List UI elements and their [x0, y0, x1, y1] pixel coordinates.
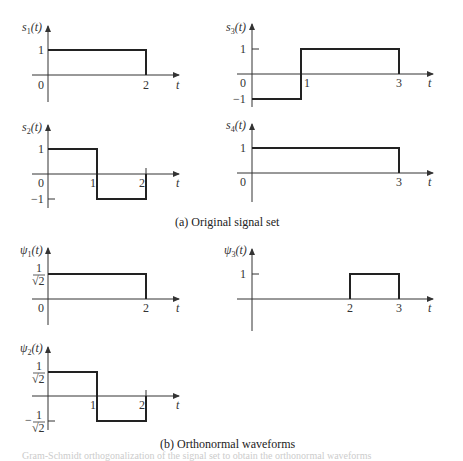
x-axis-label: t [428, 301, 432, 315]
plot-s1: s1(t) 1 0 2 t [22, 20, 180, 102]
svg-text:√2: √2 [32, 274, 45, 288]
y-tick-1: 1 [38, 43, 44, 57]
x-tick-2: 2 [139, 176, 145, 190]
svg-text:1: 1 [36, 261, 42, 275]
y-tick-inv-sqrt2: 1 √2 [32, 359, 45, 386]
y-tick-minus-1: −1 [31, 192, 44, 206]
x-tick-0: 0 [240, 175, 246, 189]
signal-trace [48, 274, 146, 299]
x-tick-3: 3 [396, 76, 402, 90]
y-tick-1: 1 [38, 142, 44, 156]
x-tick-0: 0 [38, 176, 44, 190]
svg-text:√2: √2 [32, 372, 45, 386]
x-axis-label: t [176, 176, 180, 190]
svg-text:−: − [25, 413, 32, 427]
x-tick-0: 0 [38, 301, 44, 315]
y-tick-1: 1 [240, 267, 246, 281]
signal-trace [350, 274, 399, 299]
y-axis-label: s2(t) [22, 120, 42, 136]
caption-original-signal-set: (a) Original signal set [175, 215, 279, 230]
y-axis-label: s1(t) [22, 20, 42, 36]
y-tick-minus-1: −1 [233, 92, 246, 106]
y-axis-label: ψ1(t) [20, 243, 43, 259]
x-axis-label: t [428, 175, 432, 189]
x-tick-2: 2 [143, 78, 149, 92]
svg-text:1: 1 [36, 408, 42, 422]
y-axis-label: s3(t) [226, 20, 246, 36]
svg-text:√2: √2 [32, 421, 45, 435]
plot-phi2: ψ2(t) 1 √2 − 1 √2 1 2 t [20, 341, 180, 435]
x-tick-0: 0 [38, 78, 44, 92]
plot-s2: s2(t) 1 −1 0 1 2 t [22, 120, 180, 208]
x-tick-1: 1 [304, 76, 310, 90]
plot-s3: s3(t) 1 −1 0 1 3 t [226, 20, 433, 107]
x-tick-3: 3 [396, 301, 402, 315]
y-axis-label: s4(t) [226, 118, 246, 134]
x-tick-3: 3 [396, 175, 402, 189]
y-axis-label: ψ2(t) [20, 341, 43, 357]
x-tick-1: 1 [90, 176, 96, 190]
partial-bottom-caption: Gram-Schmidt orthogonalization of the si… [22, 450, 371, 461]
svg-text:1: 1 [36, 359, 42, 373]
x-tick-2: 2 [347, 301, 353, 315]
x-axis-label: t [428, 76, 432, 90]
x-tick-2: 2 [139, 398, 145, 412]
x-axis-label: t [176, 398, 180, 412]
plot-phi3: ψ3(t) 1 2 3 t [224, 243, 433, 331]
y-tick-1: 1 [240, 42, 246, 56]
plot-s4: s4(t) 1 0 3 t [226, 118, 433, 202]
y-tick-1: 1 [240, 141, 246, 155]
x-axis-label: t [176, 301, 180, 315]
x-tick-2: 2 [143, 301, 149, 315]
y-axis-label: ψ3(t) [224, 243, 247, 259]
signal-trace [252, 148, 399, 173]
signal-trace [48, 50, 146, 75]
plot-phi1: ψ1(t) 1 √2 0 2 t [20, 243, 180, 325]
x-tick-1: 1 [90, 398, 96, 412]
x-tick-0: 0 [240, 76, 246, 90]
y-tick-minus-inv-sqrt2: − 1 √2 [25, 408, 45, 435]
x-axis-label: t [176, 78, 180, 92]
y-tick-inv-sqrt2: 1 √2 [32, 261, 45, 288]
